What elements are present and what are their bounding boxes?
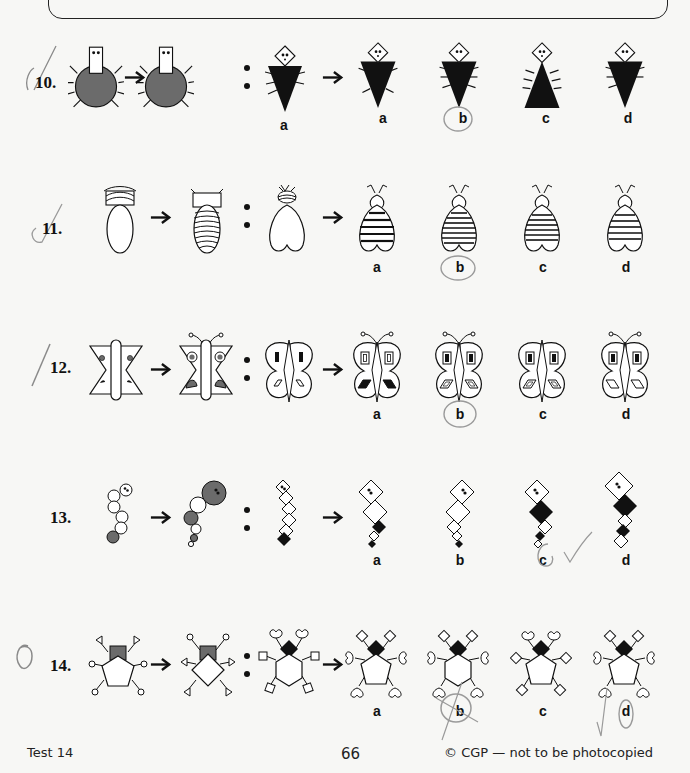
arrow-icon bbox=[322, 71, 344, 84]
question-10: 10. a bbox=[0, 40, 690, 150]
footer-test-label: Test 14 bbox=[27, 745, 73, 760]
bee-heart-body-icon bbox=[265, 183, 309, 255]
spider-icon bbox=[138, 45, 194, 111]
arrow-icon bbox=[322, 211, 344, 224]
caterpillar-circles-icon bbox=[104, 482, 134, 548]
option-d-figure[interactable] bbox=[603, 42, 647, 110]
q14-option-c-label[interactable]: c bbox=[533, 703, 553, 719]
option-a-label[interactable]: a bbox=[274, 117, 294, 133]
q14-option-c-figure[interactable] bbox=[510, 628, 572, 700]
butterfly-spotted-icon bbox=[178, 332, 234, 402]
q13-option-d-label[interactable]: d bbox=[616, 552, 636, 568]
bug-hexagon-hearts-icon bbox=[258, 626, 320, 698]
option-b-figure[interactable] bbox=[437, 42, 481, 110]
q12-option-c-label[interactable]: c bbox=[533, 406, 553, 422]
q13-option-a-figure[interactable] bbox=[355, 478, 399, 550]
q12-option-d-label[interactable]: d bbox=[616, 406, 636, 422]
arrow-icon bbox=[150, 211, 172, 224]
q14-option-b-label[interactable]: b bbox=[450, 703, 470, 719]
q10-option-c-label[interactable]: c bbox=[536, 110, 556, 126]
arrow-icon bbox=[322, 363, 344, 376]
page-number: 66 bbox=[341, 745, 360, 763]
q13-option-d-figure[interactable] bbox=[603, 470, 647, 550]
q13-option-b-figure[interactable] bbox=[438, 478, 482, 550]
bee-body-striped-icon bbox=[187, 185, 227, 255]
butterfly-plain-icon bbox=[88, 338, 144, 402]
arrow-icon bbox=[322, 511, 344, 524]
q10-option-a-label[interactable]: a bbox=[373, 110, 393, 126]
copyright-notice: © CGP — not to be photocopied bbox=[444, 745, 653, 760]
q12-option-b-figure[interactable] bbox=[432, 330, 486, 404]
q13-option-a-label[interactable]: a bbox=[367, 552, 387, 568]
q12-option-d-figure[interactable] bbox=[598, 330, 652, 404]
bug-pentagon-triangles-icon bbox=[88, 628, 148, 698]
question-number: 14. bbox=[50, 656, 71, 676]
q13-option-c-figure[interactable] bbox=[521, 478, 565, 550]
caterpillar-growing-icon bbox=[181, 480, 229, 552]
q12-option-c-figure[interactable] bbox=[515, 330, 569, 404]
arrow-icon bbox=[150, 658, 172, 671]
q11-option-b-figure[interactable] bbox=[437, 183, 481, 255]
butterfly-round-wings-icon bbox=[262, 338, 316, 404]
colon-icon bbox=[243, 203, 251, 229]
q12-option-b-label[interactable]: b bbox=[450, 406, 470, 422]
q12-option-a-figure[interactable] bbox=[350, 330, 404, 404]
question-number: 13. bbox=[50, 508, 71, 528]
instruction-box-bottom-edge bbox=[48, 0, 668, 19]
colon-icon bbox=[243, 64, 251, 90]
q14-option-b-figure[interactable] bbox=[427, 628, 489, 700]
q11-option-a-label[interactable]: a bbox=[367, 259, 387, 275]
q13-option-c-label[interactable]: c bbox=[533, 552, 553, 568]
colon-icon bbox=[243, 506, 251, 532]
question-number: 11. bbox=[42, 219, 62, 239]
question-number: 12. bbox=[50, 358, 71, 378]
q11-option-d-figure[interactable] bbox=[603, 183, 647, 255]
q14-option-a-label[interactable]: a bbox=[367, 703, 387, 719]
q13-option-b-label[interactable]: b bbox=[450, 552, 470, 568]
q10-option-d-label[interactable]: d bbox=[618, 110, 638, 126]
q11-option-c-label[interactable]: c bbox=[533, 259, 553, 275]
question-number: 10. bbox=[35, 73, 56, 93]
bug-diamond-body-icon bbox=[178, 628, 238, 698]
option-c-figure[interactable] bbox=[520, 42, 564, 110]
q14-option-d-label[interactable]: d bbox=[616, 703, 636, 719]
arrow-icon bbox=[150, 511, 172, 524]
q11-option-d-label[interactable]: d bbox=[616, 259, 636, 275]
colon-icon bbox=[243, 652, 251, 678]
q12-option-a-label[interactable]: a bbox=[367, 406, 387, 422]
q11-option-c-figure[interactable] bbox=[520, 183, 564, 255]
arrow-icon bbox=[322, 658, 344, 671]
bee-body-plain-icon bbox=[100, 185, 140, 255]
caterpillar-diamonds-icon bbox=[270, 478, 304, 548]
q11-option-a-figure[interactable] bbox=[355, 183, 399, 255]
spider-icon bbox=[68, 45, 124, 111]
zero-mark-icon bbox=[12, 640, 38, 680]
q10-option-b-label[interactable]: b bbox=[453, 110, 473, 126]
colon-icon bbox=[243, 356, 251, 382]
arrow-icon bbox=[150, 363, 172, 376]
triangle-bug-icon bbox=[265, 44, 305, 114]
option-a-figure[interactable] bbox=[356, 42, 400, 110]
q14-option-a-figure[interactable] bbox=[345, 628, 407, 700]
q14-option-d-figure[interactable] bbox=[593, 628, 655, 700]
q11-option-b-label[interactable]: b bbox=[450, 259, 470, 275]
